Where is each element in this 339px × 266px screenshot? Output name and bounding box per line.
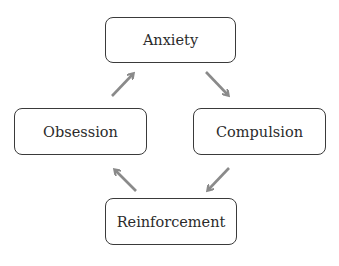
arrow-anxiety-to-compulsion: [206, 72, 228, 95]
node-obsession: Obsession: [14, 108, 147, 155]
node-label: Anxiety: [143, 32, 198, 48]
node-anxiety: Anxiety: [105, 17, 236, 63]
arrow-reinforcement-to-obsession: [115, 170, 136, 191]
arrow-compulsion-to-reinforcement: [208, 168, 229, 190]
node-reinforcement: Reinforcement: [105, 198, 237, 245]
node-label: Compulsion: [216, 124, 303, 140]
node-compulsion: Compulsion: [193, 108, 326, 155]
node-label: Obsession: [43, 124, 118, 140]
arrow-obsession-to-anxiety: [112, 74, 133, 96]
node-label: Reinforcement: [117, 214, 226, 230]
